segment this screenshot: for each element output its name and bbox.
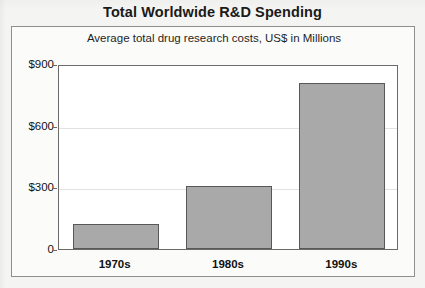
y-axis-label-600: $600 [0,120,54,132]
bar-1970s [73,224,159,249]
chart-panel: Average total drug research costs, US$ i… [11,26,415,277]
y-axis-tick-900 [53,65,57,66]
bar-series [59,66,397,249]
chart-title: Total Worldwide R&D Spending [0,4,425,20]
y-axis-tick-300 [53,188,57,189]
y-axis-label-900: $900 [0,58,54,70]
bar-1990s [299,83,385,250]
x-axis-label-1990s: 1990s [301,258,381,270]
x-axis-label-1980s: 1980s [188,258,268,270]
x-axis-label-1970s: 1970s [75,258,155,270]
bar-1980s [186,186,272,249]
bar-chart-figure: Total Worldwide R&D Spending Average tot… [0,0,425,288]
y-axis-label-0: 0 [0,243,54,255]
plot-area [58,65,398,250]
y-axis-tick-600 [53,127,57,128]
y-axis-label-300: $300 [0,181,54,193]
chart-subtitle: Average total drug research costs, US$ i… [12,32,416,44]
y-axis-tick-0 [53,250,57,251]
